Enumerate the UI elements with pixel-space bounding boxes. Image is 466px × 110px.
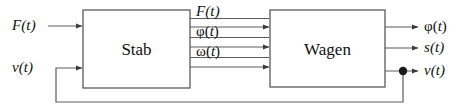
- label-mid-omega: ω(t): [196, 44, 220, 59]
- block-diagram: Stab Wagen F(t) v(t) F(t) φ(t) ω(t) φ(t)…: [0, 0, 466, 110]
- paren-close: ): [214, 23, 219, 39]
- glyph-phi: φ: [196, 23, 205, 39]
- glyph-phi: φ: [424, 18, 433, 34]
- junction-dot-velocity: [399, 67, 407, 75]
- label-input-force: F(t): [12, 18, 36, 33]
- block-label-stab: Stab: [83, 41, 190, 58]
- diagram-canvas: [0, 0, 466, 110]
- label-output-phi: φ(t): [424, 19, 447, 34]
- label-mid-phi: φ(t): [196, 24, 219, 39]
- label-mid-force: F(t): [196, 4, 220, 19]
- glyph-omega: ω: [196, 43, 206, 59]
- label-output-position: s(t): [424, 40, 444, 55]
- label-output-velocity: v(t): [424, 63, 445, 78]
- block-label-wagen: Wagen: [270, 41, 385, 58]
- paren-close: ): [442, 18, 447, 34]
- label-input-velocity: v(t): [12, 60, 33, 75]
- paren-close: ): [215, 43, 220, 59]
